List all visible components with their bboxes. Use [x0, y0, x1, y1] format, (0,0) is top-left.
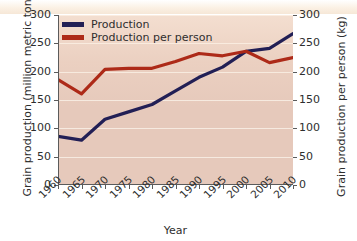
y-axis-right-tick-label: 0 [299, 179, 306, 190]
y-axis-right-tick-label: 300 [299, 9, 320, 20]
y-axis-right-title: Grain production per person (kg) [335, 12, 348, 202]
x-axis-title: Year [58, 224, 293, 237]
legend-item: Production per person [62, 31, 213, 44]
x-axis-tick-label: 1960 [36, 173, 63, 200]
y-axis-left-tick [54, 15, 58, 16]
legend-swatch [62, 35, 84, 40]
y-axis-right-tick [293, 128, 297, 129]
y-axis-right-tick [293, 72, 297, 73]
legend-swatch [62, 22, 84, 27]
grain-production-chart: 050100150200250300 050100150200250300 19… [0, 0, 357, 241]
y-axis-right-tick [293, 157, 297, 158]
y-axis-left-tick [54, 43, 58, 44]
production-per-person-line [58, 51, 293, 94]
y-axis-right-tick [293, 15, 297, 16]
y-axis-right-tick-label: 250 [299, 37, 320, 48]
y-axis-right-tick-label: 200 [299, 66, 320, 77]
y-axis-right-tick-label: 100 [299, 122, 320, 133]
legend: ProductionProduction per person [62, 18, 213, 44]
y-axis-left-title: Grain production (million metric tons) [21, 17, 34, 197]
y-axis-right-tick-label: 150 [299, 94, 320, 105]
legend-label: Production [91, 18, 150, 31]
y-axis-left-tick [54, 157, 58, 158]
legend-label: Production per person [91, 31, 213, 44]
y-axis-right-tick [293, 43, 297, 44]
legend-item: Production [62, 18, 213, 31]
y-axis-left-tick [54, 100, 58, 101]
y-axis-right-tick [293, 100, 297, 101]
y-axis-left-tick [54, 72, 58, 73]
y-axis-left-tick-label: 50 [37, 151, 51, 162]
y-axis-right-tick-label: 50 [299, 151, 313, 162]
y-axis-left-tick [54, 128, 58, 129]
production-line [58, 34, 293, 141]
